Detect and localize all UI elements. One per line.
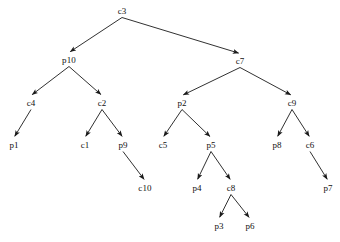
tree-edge-c7-to-c9 bbox=[240, 68, 291, 95]
tree-diagram: c3p10c7c4c2p2c9p1c1p9c5p5p8c6c10p4c8p7p3… bbox=[0, 0, 340, 242]
tree-edge-p2-to-p5 bbox=[182, 110, 210, 137]
tree-node-p7: p7 bbox=[323, 184, 332, 193]
tree-edge-p10-to-c2 bbox=[69, 67, 101, 95]
tree-edge-c8-to-p6 bbox=[231, 195, 249, 218]
tree-edge-p5-to-p4 bbox=[198, 152, 211, 180]
tree-node-c4: c4 bbox=[27, 99, 36, 108]
tree-node-c1: c1 bbox=[81, 141, 90, 150]
tree-edge-c3-to-c7 bbox=[122, 18, 239, 54]
tree-node-p5: p5 bbox=[206, 141, 215, 150]
tree-node-p2: p2 bbox=[177, 99, 186, 108]
tree-edge-c7-to-p2 bbox=[183, 68, 240, 95]
tree-edge-p10-to-c4 bbox=[32, 67, 69, 95]
tree-node-p10: p10 bbox=[62, 56, 76, 65]
tree-edge-c3-to-p10 bbox=[70, 18, 122, 52]
tree-edge-c8-to-p3 bbox=[220, 195, 231, 218]
tree-edge-p5-to-c8 bbox=[211, 152, 230, 180]
tree-node-p3: p3 bbox=[214, 222, 223, 231]
tree-edge-c2-to-c1 bbox=[86, 110, 102, 137]
tree-node-c10: c10 bbox=[138, 184, 151, 193]
tree-node-c6: c6 bbox=[306, 141, 315, 150]
tree-edge-p2-to-c5 bbox=[164, 110, 182, 137]
tree-node-p8: p8 bbox=[272, 141, 281, 150]
tree-edge-p9-to-c10 bbox=[123, 152, 144, 180]
tree-edge-c9-to-p8 bbox=[278, 110, 292, 137]
tree-node-p6: p6 bbox=[245, 222, 254, 231]
tree-node-c5: c5 bbox=[159, 141, 168, 150]
tree-node-p4: p4 bbox=[192, 184, 201, 193]
edge-group bbox=[15, 18, 327, 218]
tree-edge-c9-to-c6 bbox=[292, 110, 309, 137]
tree-node-p1: p1 bbox=[9, 141, 18, 150]
tree-node-c3: c3 bbox=[118, 7, 127, 16]
tree-edge-c4-to-p1 bbox=[15, 110, 31, 137]
tree-node-c2: c2 bbox=[98, 99, 107, 108]
tree-node-c7: c7 bbox=[236, 57, 245, 66]
tree-edge-c2-to-p9 bbox=[102, 110, 122, 137]
tree-node-c8: c8 bbox=[227, 184, 236, 193]
tree-node-p9: p9 bbox=[118, 141, 127, 150]
tree-edge-c6-to-p7 bbox=[310, 152, 327, 180]
tree-edges-layer bbox=[0, 0, 340, 242]
tree-node-c9: c9 bbox=[288, 99, 297, 108]
